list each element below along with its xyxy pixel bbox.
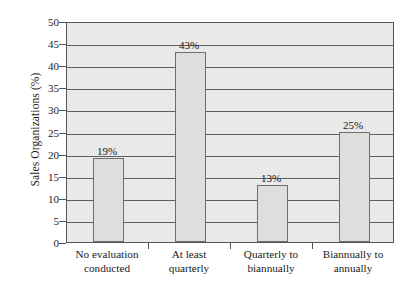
y-axis-tick-label: 25 bbox=[19, 127, 59, 138]
y-axis-tick-mark bbox=[59, 221, 66, 222]
y-axis-tick-label: 40 bbox=[19, 61, 59, 72]
y-axis-tick-label: 30 bbox=[19, 105, 59, 116]
y-axis-tick-mark bbox=[59, 110, 66, 111]
gridline bbox=[67, 89, 393, 90]
y-axis-tick-label: 10 bbox=[19, 193, 59, 204]
y-axis-tick-label: 0 bbox=[19, 238, 59, 249]
y-axis-tick-mark bbox=[59, 199, 66, 200]
y-axis-tick-label: 50 bbox=[19, 17, 59, 28]
x-axis-category-label: Biannually toannually bbox=[298, 248, 408, 275]
y-axis-tick-mark bbox=[59, 133, 66, 134]
y-axis-tick-mark bbox=[59, 66, 66, 67]
y-axis-tick-label: 45 bbox=[19, 39, 59, 50]
plot-area bbox=[66, 22, 394, 243]
y-axis-tick-label: 20 bbox=[19, 149, 59, 160]
bar-value-label: 43% bbox=[159, 40, 219, 51]
y-axis-tick-mark bbox=[59, 22, 66, 23]
y-axis-tick-mark bbox=[59, 243, 66, 244]
gridline bbox=[67, 45, 393, 46]
bar bbox=[339, 132, 370, 243]
gridline bbox=[67, 111, 393, 112]
bar-value-label: 13% bbox=[241, 173, 301, 184]
bar-value-label: 19% bbox=[77, 146, 137, 157]
y-axis-tick-label: 5 bbox=[19, 215, 59, 226]
bar bbox=[175, 52, 206, 242]
y-axis-tick-label: 35 bbox=[19, 83, 59, 94]
y-axis-tick-label: 15 bbox=[19, 171, 59, 182]
gridline bbox=[67, 67, 393, 68]
bar-value-label: 25% bbox=[323, 120, 383, 131]
bar bbox=[93, 158, 124, 242]
y-axis-tick-mark bbox=[59, 177, 66, 178]
bar bbox=[257, 185, 288, 242]
y-axis-tick-mark bbox=[59, 155, 66, 156]
y-axis-tick-mark bbox=[59, 44, 66, 45]
bar-chart-figure: Sales Organizations (%) 0510152025303540… bbox=[0, 0, 415, 297]
y-axis-tick-mark bbox=[59, 88, 66, 89]
